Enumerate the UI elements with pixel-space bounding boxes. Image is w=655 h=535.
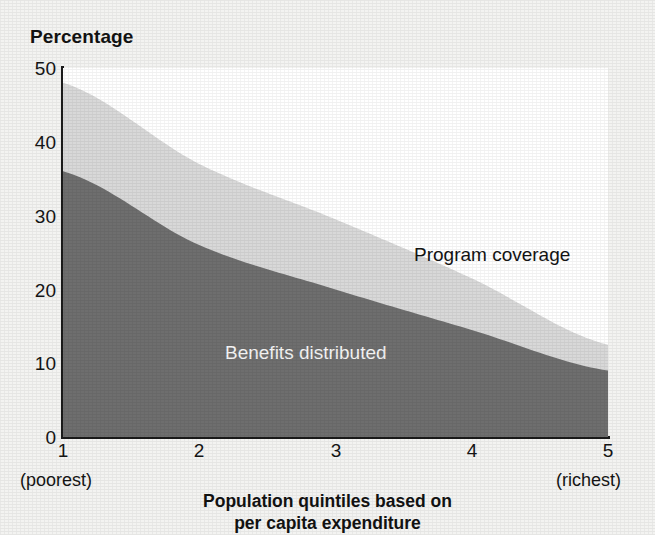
x-axis-endpoint-richest: (richest) (556, 470, 621, 491)
x-axis-title: Population quintiles based on per capita… (0, 491, 655, 535)
y-tick-label: 10 (22, 354, 56, 373)
y-tick-label: 30 (22, 207, 56, 226)
x-tick-label: 2 (179, 441, 219, 460)
x-axis-endpoint-poorest: (poorest) (20, 470, 92, 491)
series-label-program-coverage: Program coverage (414, 244, 570, 266)
x-tick-label: 4 (452, 441, 492, 460)
x-axis-title-line-2: per capita expenditure (0, 513, 655, 535)
y-tick-label: 40 (22, 133, 56, 152)
x-tick-label: 3 (316, 441, 356, 460)
series-label-benefits-distributed: Benefits distributed (225, 342, 387, 364)
x-tick-label: 1 (43, 441, 83, 460)
x-axis-title-line-1: Population quintiles based on (203, 491, 452, 511)
y-tick-label: 20 (22, 281, 56, 300)
x-tick-label: 5 (588, 441, 628, 460)
chart-figure: Percentage 50 40 30 20 10 0 Program cove… (0, 0, 655, 535)
y-tick-label: 50 (22, 59, 56, 78)
